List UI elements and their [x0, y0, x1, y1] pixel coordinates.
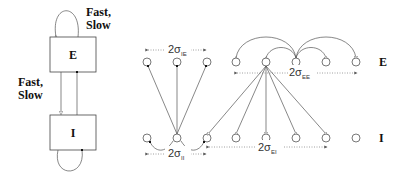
ei-network-diagram: E Fast, Slow Fast, Slow I 2σ IE: [0, 0, 404, 173]
i-node: [203, 134, 211, 142]
i-to-e-edge: [177, 66, 206, 134]
row-label-e: E: [379, 55, 387, 69]
e-self-loop: [55, 11, 78, 37]
excitatory-projection-group: E 2σ EE I 2σ EI: [208, 37, 387, 155]
i-to-e-edge: [148, 66, 177, 134]
sigma-ee-subscript: EE: [302, 74, 310, 80]
e-population-label: E: [69, 48, 77, 62]
e-self-loop-label-2: Slow: [86, 18, 111, 32]
i-population-label: I: [71, 126, 76, 140]
between-label-2: Slow: [18, 88, 43, 102]
i-node: [232, 134, 240, 142]
e-node: [352, 58, 360, 66]
i-node: [143, 134, 151, 142]
e-to-e-arc: [296, 37, 356, 58]
e-node: [232, 58, 240, 66]
sigma-ei-subscript: EI: [271, 149, 277, 155]
sigma-ie-subscript: IE: [181, 51, 187, 57]
e-node: [322, 58, 330, 66]
row-label-i: I: [379, 131, 384, 145]
sigma-ii-subscript: II: [181, 155, 185, 161]
e-node: [173, 58, 181, 66]
e-node: [292, 58, 300, 66]
e-node: [143, 58, 151, 66]
e-to-i-edge: [208, 66, 266, 134]
i-self-loop: [57, 150, 82, 171]
sigma-ee-label: 2σ: [289, 66, 302, 78]
population-schematic: E Fast, Slow Fast, Slow I: [18, 5, 111, 171]
sigma-ie-label: 2σ: [168, 43, 181, 55]
sigma-ii-label: 2σ: [168, 147, 181, 159]
e-to-e-arc: [266, 48, 296, 59]
e-to-e-arc: [236, 37, 296, 58]
inhibitory-projection-group: 2σ IE 2σ II: [143, 42, 211, 161]
e-to-i-edge: [236, 66, 266, 134]
i-node: [173, 134, 181, 142]
e-node: [262, 58, 270, 66]
e-to-e-arc: [296, 48, 326, 59]
between-label-1: Fast,: [18, 75, 43, 89]
e-self-loop-label-1: Fast,: [86, 5, 111, 19]
sigma-ei-label: 2σ: [258, 141, 271, 153]
e-node: [203, 58, 211, 66]
i-node: [322, 134, 330, 142]
i-node: [352, 134, 360, 142]
i-node: [292, 134, 300, 142]
